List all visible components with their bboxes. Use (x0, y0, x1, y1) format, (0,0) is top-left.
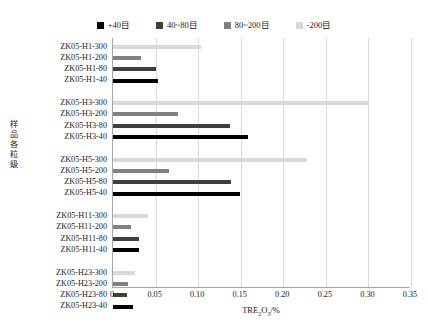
legend-item-2: 40~80目 (156, 21, 198, 30)
y-axis-label-ZK05-H5-300: ZK05-H5-300 (60, 156, 107, 164)
y-axis-label-ZK05-H23-200: ZK05-H23-200 (56, 280, 107, 288)
legend-item-4: -200目 (296, 21, 332, 30)
legend-item-3: 80~200目 (224, 21, 270, 30)
legend-swatch-icon (296, 22, 303, 29)
y-axis-label-ZK05-H1-300: ZK05-H1-300 (60, 43, 107, 51)
bar-ZK05-H11-200 (113, 225, 131, 229)
legend-item-1: +40目 (97, 21, 130, 30)
y-axis-label-ZK05-H5-200: ZK05-H5-200 (60, 167, 107, 175)
y-axis-label-ZK05-H23-80: ZK05-H23-80 (60, 291, 107, 299)
y-axis-label-ZK05-H1-40: ZK05-H1-40 (64, 76, 107, 84)
bar-ZK05-H1-300 (113, 45, 201, 49)
bar-ZK05-H23-300 (113, 271, 135, 275)
legend-label: 80~200目 (235, 21, 270, 30)
y-axis-label-ZK05-H3-200: ZK05-H3-200 (60, 110, 107, 118)
y-axis-label-ZK05-H5-80: ZK05-H5-80 (64, 178, 107, 186)
plot-area (112, 38, 410, 288)
chart-legend: +40目40~80目80~200目-200目 (0, 16, 428, 34)
x-tick-0.35: 0.35 (403, 290, 417, 299)
bar-ZK05-H5-40 (113, 192, 240, 196)
y-axis-title: 样品各粒级 (8, 120, 20, 170)
bar-ZK05-H11-80 (113, 237, 139, 241)
x-axis-title: TRE2O3/% (112, 305, 410, 319)
bar-ZK05-H1-80 (113, 67, 156, 71)
y-axis-label-ZK05-H1-200: ZK05-H1-200 (60, 54, 107, 62)
bar-ZK05-H3-200 (113, 112, 178, 116)
bar-ZK05-H5-300 (113, 158, 307, 162)
x-tick-0.30: 0.30 (360, 290, 374, 299)
gridline-0.35 (411, 38, 412, 287)
bar-ZK05-H11-300 (113, 214, 148, 218)
y-axis-label-ZK05-H23-300: ZK05-H23-300 (56, 269, 107, 277)
y-axis-label-ZK05-H11-200: ZK05-H11-200 (56, 223, 107, 231)
bar-ZK05-H5-200 (113, 169, 169, 173)
bars-layer (113, 38, 410, 287)
legend-label: +40目 (108, 21, 130, 30)
legend-label: 40~80目 (167, 21, 198, 30)
bar-ZK05-H23-200 (113, 282, 128, 286)
bar-ZK05-H3-300 (113, 101, 368, 105)
bar-ZK05-H1-40 (113, 79, 158, 83)
bar-ZK05-H11-40 (113, 248, 139, 252)
x-tick-0.05: 0.05 (147, 290, 161, 299)
y-axis-label-ZK05-H11-300: ZK05-H11-300 (56, 212, 107, 220)
y-axis-label-ZK05-H3-300: ZK05-H3-300 (60, 99, 107, 107)
legend-swatch-icon (224, 22, 231, 29)
y-axis-label-ZK05-H23-40: ZK05-H23-40 (60, 302, 107, 310)
x-tick-0.20: 0.20 (275, 290, 289, 299)
y-axis-label-ZK05-H1-80: ZK05-H1-80 (64, 65, 107, 73)
bar-ZK05-H5-80 (113, 180, 231, 184)
x-axis-tick-labels: 00.050.100.150.200.250.300.35 (112, 290, 410, 302)
legend-swatch-icon (97, 22, 104, 29)
bar-ZK05-H1-200 (113, 56, 141, 60)
x-tick-0: 0 (110, 290, 114, 299)
y-axis-label-ZK05-H5-40: ZK05-H5-40 (64, 189, 107, 197)
x-tick-0.15: 0.15 (233, 290, 247, 299)
bar-ZK05-H3-80 (113, 124, 230, 128)
y-axis-label-ZK05-H3-80: ZK05-H3-80 (64, 122, 107, 130)
y-axis-label-ZK05-H3-40: ZK05-H3-40 (64, 133, 107, 141)
bar-ZK05-H3-40 (113, 135, 248, 139)
y-axis-label-ZK05-H11-80: ZK05-H11-80 (60, 235, 107, 243)
x-tick-0.10: 0.10 (190, 290, 204, 299)
y-axis-label-ZK05-H11-40: ZK05-H11-40 (60, 246, 107, 254)
legend-label: -200目 (307, 21, 332, 30)
legend-swatch-icon (156, 22, 163, 29)
bar-chart: +40目40~80目80~200目-200目 ZK05-H1-300ZK05-H… (0, 0, 428, 333)
x-tick-0.25: 0.25 (318, 290, 332, 299)
